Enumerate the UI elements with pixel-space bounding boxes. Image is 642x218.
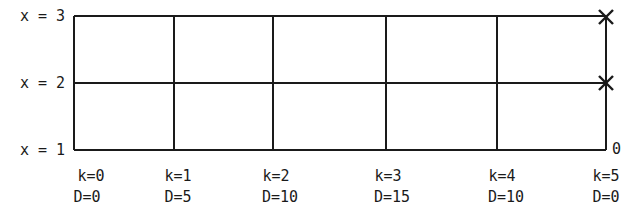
row-label-x3: x = 3: [20, 9, 65, 24]
stage-k0: k=0 D=0: [57, 169, 117, 205]
stage-k-label: k=5: [580, 169, 632, 184]
stage-d-label: D=10: [250, 190, 310, 205]
stage-d-label: D=5: [148, 190, 208, 205]
stage-k5: k=5 D=0: [572, 169, 632, 205]
stage-d-label: D=10: [476, 190, 536, 205]
stage-k3: k=3 D=15: [362, 169, 422, 205]
stage-d-label: D=0: [57, 190, 117, 205]
stage-k4: k=4 D=10: [476, 169, 536, 205]
stage-k-label: k=4: [468, 169, 536, 184]
stage-k-label: k=3: [354, 169, 422, 184]
stage-k-label: k=1: [148, 169, 208, 184]
row-label-x1: x = 1: [20, 143, 65, 158]
corner-label: 0: [612, 142, 621, 157]
stage-d-label: D=15: [362, 190, 422, 205]
stage-k-label: k=2: [242, 169, 310, 184]
stage-k-label: k=0: [65, 169, 117, 184]
row-label-x2: x = 2: [20, 76, 65, 91]
stage-d-label: D=0: [580, 190, 632, 205]
stage-k1: k=1 D=5: [148, 169, 208, 205]
stage-k2: k=2 D=10: [250, 169, 310, 205]
